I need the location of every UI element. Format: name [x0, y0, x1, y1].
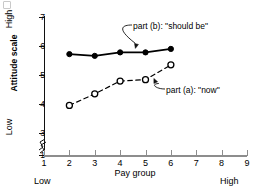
y-axis-tick-label-wrap: 7 — [26, 13, 45, 22]
annotation-now: part (a): "now" — [166, 85, 220, 95]
annotation-should-be: part (b): "should be" — [133, 21, 208, 31]
data-point-now-2 — [66, 102, 72, 108]
data-point-should-be-2 — [67, 52, 72, 57]
y-axis-tick-label: 3 — [35, 129, 45, 138]
data-point-should-be-5 — [143, 50, 148, 55]
y-axis-tick-label: 6 — [35, 42, 45, 51]
x-axis-tick-label: 7 — [190, 158, 202, 168]
x-axis-tick — [120, 150, 121, 156]
x-axis-tick — [44, 150, 45, 156]
x-axis-tick-label: 8 — [216, 158, 228, 168]
x-axis-tick — [171, 150, 172, 156]
y-axis-end-label-low: Low — [4, 110, 14, 144]
y-axis-tick-label: 4 — [35, 100, 45, 109]
y-axis-tick-label-wrap: 6 — [26, 42, 45, 51]
x-axis-tick-label: 9 — [241, 158, 253, 168]
data-point-should-be-4 — [118, 50, 123, 55]
data-point-should-be-6 — [168, 46, 173, 51]
x-axis-title: Pay group — [80, 168, 190, 178]
x-axis-tick — [247, 150, 248, 156]
x-axis-tick — [146, 150, 147, 156]
y-axis-tick-label-wrap: 3 — [26, 129, 45, 138]
annotation-arrow-should-be — [135, 43, 139, 48]
y-axis-tick-label: 5 — [35, 71, 45, 80]
x-axis-end-label-high: High — [220, 176, 239, 186]
x-axis-tick-label: 5 — [140, 158, 152, 168]
data-point-now-4 — [117, 78, 123, 84]
x-axis-tick — [222, 150, 223, 156]
annotation-arrow-now — [154, 78, 158, 83]
attitude-scale-line-chart: Attitude scale High Low Pay group Low Hi… — [0, 0, 261, 190]
x-axis-end-label-low: Low — [34, 176, 51, 186]
data-point-now-6 — [168, 62, 174, 68]
x-axis-tick — [69, 150, 70, 156]
y-axis-end-label-high: High — [4, 2, 14, 36]
x-axis-tick-label: 2 — [63, 158, 75, 168]
y-axis-tick-label-wrap: 4 — [26, 100, 45, 109]
series-line-should-be — [69, 49, 171, 56]
x-axis-tick-label: 3 — [89, 158, 101, 168]
x-axis-tick-label: 1 — [38, 158, 50, 168]
x-axis-tick — [95, 150, 96, 156]
data-point-now-5 — [143, 77, 149, 83]
data-point-should-be-3 — [92, 53, 97, 58]
series-line-now — [69, 65, 171, 106]
x-axis-tick-label: 4 — [114, 158, 126, 168]
x-axis-tick — [196, 150, 197, 156]
annotation-leader-now — [155, 83, 165, 89]
x-axis-tick-label: 6 — [165, 158, 177, 168]
data-point-now-3 — [92, 91, 98, 97]
y-axis-tick-label: 7 — [35, 13, 45, 22]
y-axis-title: Attitude scale — [9, 26, 19, 100]
y-axis-tick-label-wrap: 5 — [26, 71, 45, 80]
